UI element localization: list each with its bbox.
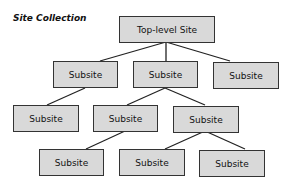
node-top-level-site: Top-level Site <box>119 16 215 43</box>
node-subsite: Subsite <box>13 105 79 132</box>
node-subsite: Subsite <box>53 61 118 88</box>
node-subsite: Subsite <box>199 150 265 177</box>
node-subsite: Subsite <box>133 61 198 88</box>
node-subsite: Subsite <box>213 62 279 89</box>
node-subsite: Subsite <box>93 105 158 132</box>
node-subsite: Subsite <box>173 106 239 133</box>
node-subsite: Subsite <box>39 149 104 176</box>
node-subsite: Subsite <box>119 149 185 176</box>
